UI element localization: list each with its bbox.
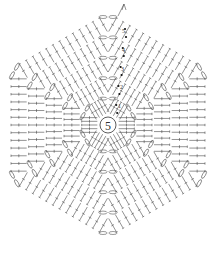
center-label: 5 xyxy=(105,119,111,133)
row-label-3: 3 xyxy=(121,66,124,72)
row-label-1: 1 xyxy=(118,103,121,109)
row-label-2: 2 xyxy=(120,84,123,90)
crochet-hexagon-diagram: 5 1 2 3 4 5 xyxy=(0,0,209,258)
row-label-5: 5 xyxy=(122,28,125,34)
row-label-4: 4 xyxy=(122,47,125,53)
